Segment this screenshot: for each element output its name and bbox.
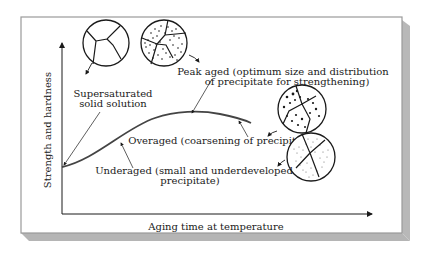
underaged-microstructure-icon [287, 133, 335, 181]
x-axis-label: Aging time at temperature [147, 221, 284, 232]
supersaturated-microstructure-icon [83, 20, 129, 66]
figure-frame [21, 17, 402, 233]
overaged-microstructure-icon [278, 85, 326, 133]
supersaturated-label-line2: solid solution [79, 98, 147, 109]
overaged-label: Overaged (coarsening of precipitate) [128, 135, 316, 146]
peak-aged-label-line2: of precipitate for strengthening) [205, 76, 370, 87]
peak-aged-microstructure-icon [141, 20, 187, 66]
y-axis-label: Strength and hardness [42, 72, 53, 188]
underaged-label-line2: precipitate) [160, 175, 219, 186]
aging-diagram-figure: Strength and hardness Aging time at temp… [0, 0, 428, 253]
